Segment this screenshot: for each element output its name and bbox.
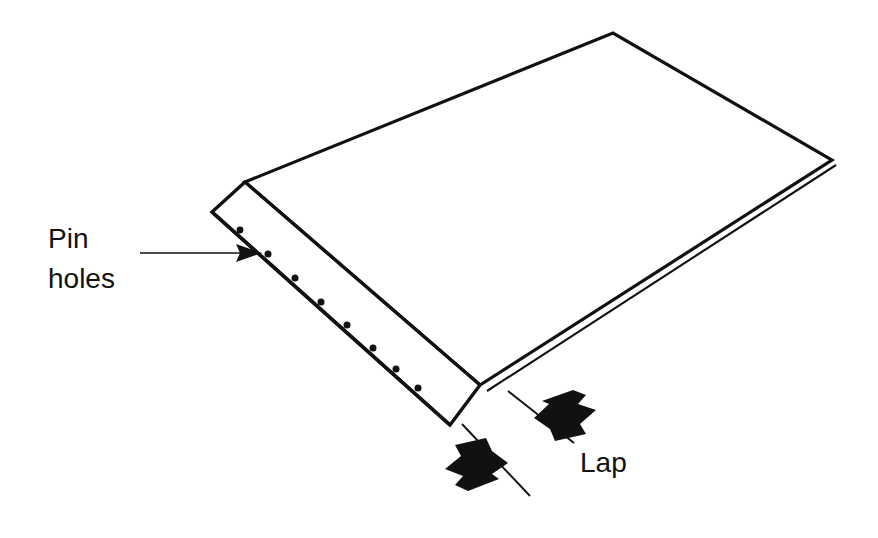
pin-holes-label-line2: holes	[48, 263, 115, 294]
pin-hole	[370, 345, 377, 352]
pin-hole	[318, 299, 325, 306]
lap-arrow-upper	[534, 390, 596, 441]
sheet-stack	[212, 33, 838, 425]
pin-hole	[344, 322, 351, 329]
top-sheet-face	[245, 33, 832, 385]
pin-hole	[265, 251, 272, 258]
pin-hole	[393, 366, 400, 373]
pin-holes-leader	[140, 244, 262, 262]
pin-hole	[292, 275, 299, 282]
pin-hole	[237, 227, 244, 234]
lap-arrow-lower	[445, 438, 508, 491]
lap-callout	[445, 390, 596, 496]
pin-hole	[415, 385, 422, 392]
sheet-lap-diagram: Pin holes Lap	[0, 0, 878, 538]
lap-label: Lap	[580, 447, 627, 478]
pin-holes-label-line1: Pin	[48, 223, 88, 254]
diagram-canvas: Pin holes Lap	[0, 0, 878, 538]
